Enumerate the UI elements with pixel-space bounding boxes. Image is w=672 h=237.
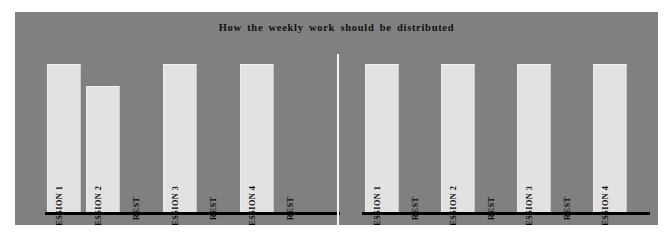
figure-canvas: How the weekly work should be distribute… <box>0 0 672 237</box>
plot-area-right: SESSION 1RESTSESSION 2RESTSESSION 3RESTS… <box>358 42 658 225</box>
bar-label: SESSION 3 <box>526 185 534 225</box>
bar <box>517 64 551 212</box>
bar-label: SESSION 1 <box>56 185 64 225</box>
chart-slot: REST <box>124 42 158 225</box>
chart-slot: SESSION 2 <box>441 42 475 225</box>
rest-label: REST <box>287 196 295 219</box>
bar-label: SESSION 4 <box>248 185 256 225</box>
bar-label: SESSION 4 <box>602 185 610 225</box>
rest-label: REST <box>488 196 496 219</box>
page-title: How the weekly work should be distribute… <box>15 22 658 33</box>
x-axis-line-right <box>362 212 650 215</box>
chart-slot: SESSION 3 <box>517 42 551 225</box>
bar-label: SESSION 2 <box>94 185 102 225</box>
bar <box>365 64 399 212</box>
bar <box>441 64 475 212</box>
chart-panel: How the weekly work should be distribute… <box>15 12 658 225</box>
rest-label: REST <box>210 196 218 219</box>
chart-slot: REST <box>479 42 513 225</box>
bar <box>593 64 627 212</box>
chart-slot: SESSION 1 <box>47 42 81 225</box>
chart-slot: REST <box>555 42 589 225</box>
bar-chart-left: SESSION 1SESSION 2RESTSESSION 3RESTSESSI… <box>37 42 347 225</box>
chart-slot: REST <box>278 42 312 225</box>
plot-area-left: SESSION 1SESSION 2RESTSESSION 3RESTSESSI… <box>37 42 347 225</box>
chart-slot: SESSION 2 <box>86 42 120 225</box>
chart-slot: REST <box>403 42 437 225</box>
bar-chart-right: SESSION 1RESTSESSION 2RESTSESSION 3RESTS… <box>358 42 658 225</box>
chart-slot: SESSION 4 <box>240 42 274 225</box>
rest-label: REST <box>133 196 141 219</box>
rest-label: REST <box>564 196 572 219</box>
bar-label: SESSION 3 <box>171 185 179 225</box>
bar-label: SESSION 1 <box>374 185 382 225</box>
chart-slot: SESSION 4 <box>593 42 627 225</box>
x-axis-line-left <box>45 212 340 215</box>
bar-label: SESSION 2 <box>450 185 458 225</box>
chart-divider <box>337 54 339 225</box>
chart-slot: SESSION 3 <box>163 42 197 225</box>
rest-label: REST <box>412 196 420 219</box>
chart-slot: REST <box>201 42 235 225</box>
bar <box>47 64 81 212</box>
chart-slot: SESSION 1 <box>365 42 399 225</box>
